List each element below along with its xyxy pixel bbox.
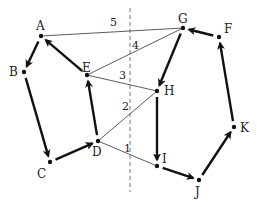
node-dot — [155, 164, 159, 168]
arrow-B-to-C — [26, 78, 49, 156]
edge-weight-label: 1 — [124, 142, 131, 155]
node-label: K — [240, 121, 250, 135]
node-F: F — [217, 22, 233, 39]
edge-weight-label: 4 — [132, 39, 139, 52]
edge-weight-label: 3 — [119, 69, 126, 82]
node-label: D — [92, 145, 102, 159]
edge-weight-label: 2 — [122, 100, 129, 113]
node-dot — [181, 26, 185, 30]
node-label: I — [162, 152, 167, 166]
node-dot — [96, 139, 100, 143]
directed-edges — [26, 30, 233, 179]
node-label: E — [82, 61, 91, 75]
node-H: H — [155, 84, 175, 98]
arrow-J-to-K — [202, 132, 230, 175]
edge-D-H — [98, 91, 157, 141]
node-dot — [217, 35, 221, 39]
graph-diagram: ABCDEFGHIJK 54321 — [0, 0, 259, 207]
node-dot — [39, 34, 43, 38]
arrow-G-to-H — [159, 34, 180, 86]
node-dot — [48, 160, 52, 164]
arrow-A-to-B — [27, 41, 39, 66]
node-label: H — [164, 84, 174, 98]
node-label: J — [193, 185, 200, 199]
node-label: B — [9, 65, 18, 79]
node-label: G — [178, 12, 188, 26]
node-K: K — [232, 121, 250, 135]
node-A: A — [35, 19, 45, 38]
node-label: C — [37, 167, 46, 181]
arrow-I-to-J — [163, 168, 194, 178]
node-G: G — [178, 12, 188, 30]
arrow-D-to-E — [88, 81, 97, 135]
node-dot — [232, 125, 236, 129]
edge-A-G — [41, 28, 183, 36]
edge-weight-label: 5 — [110, 16, 117, 29]
arrow-E-to-A — [46, 40, 83, 71]
arrow-F-to-G — [189, 30, 213, 36]
node-label: A — [35, 19, 45, 33]
node-E: E — [82, 61, 91, 77]
node-C: C — [37, 160, 52, 181]
node-dot — [197, 178, 201, 182]
node-dot — [155, 89, 159, 93]
node-J: J — [193, 178, 201, 199]
node-dot — [22, 70, 26, 74]
arrow-C-to-D — [56, 143, 93, 159]
cut-edges — [41, 28, 183, 166]
node-B: B — [9, 65, 26, 79]
arrow-K-to-F — [220, 43, 233, 121]
node-label: F — [224, 22, 232, 36]
